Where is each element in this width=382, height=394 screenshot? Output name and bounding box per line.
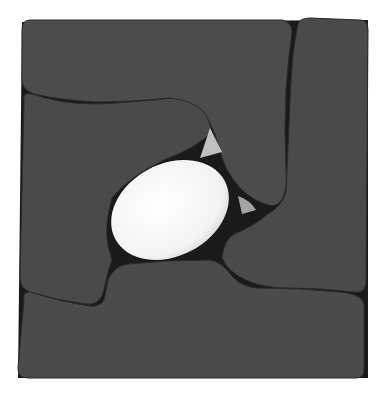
cushion-illustration <box>0 0 382 394</box>
photo <box>0 0 382 394</box>
